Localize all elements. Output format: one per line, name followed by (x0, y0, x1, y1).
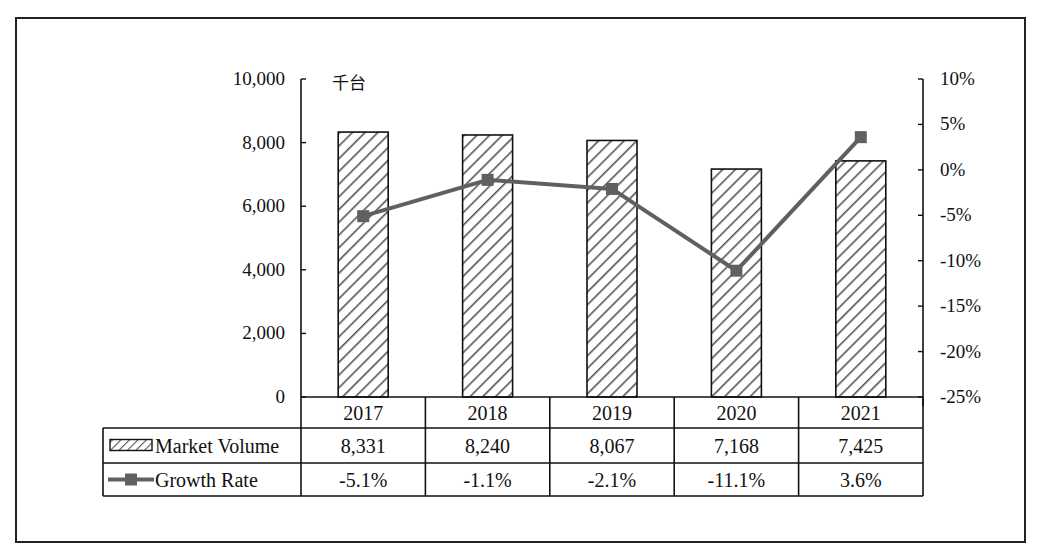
right-axis-tick-label: 5% (940, 113, 966, 134)
right-axis-tick-label: -5% (940, 204, 972, 225)
table-header-year: 2017 (343, 402, 383, 424)
table-cell: 8,331 (341, 435, 386, 457)
table-cell: 8,240 (465, 435, 510, 457)
growth-marker-2018 (482, 174, 494, 186)
legend-key-hatch-icon (110, 440, 152, 451)
left-axis-tick-label: 0 (276, 386, 286, 407)
data-table: 20172018201920202021Market Volume8,3318,… (103, 397, 923, 496)
table-cell: -5.1% (339, 469, 387, 491)
table-header-year: 2020 (716, 402, 756, 424)
left-axis-tick-label: 2,000 (242, 322, 285, 343)
right-axis-tick-label: -25% (940, 386, 981, 407)
right-axis-tick-label: 10% (940, 68, 975, 89)
table-row-label: Growth Rate (155, 469, 258, 491)
bar-2019 (587, 140, 637, 397)
left-axis-tick-label: 6,000 (242, 195, 285, 216)
growth-marker-2021 (855, 131, 867, 143)
bar-2020 (711, 169, 761, 397)
unit-label-text: 千台 (332, 73, 366, 93)
left-axis-tick-label: 10,000 (233, 68, 285, 89)
bar-2021 (836, 161, 886, 397)
table-cell: 8,067 (590, 435, 635, 457)
growth-marker-2017 (357, 210, 369, 222)
table-row-label: Market Volume (155, 435, 279, 457)
table-cell: -2.1% (588, 469, 636, 491)
market-volume-bars (338, 132, 886, 397)
right-axis-tick-label: -10% (940, 250, 981, 271)
table-header-year: 2019 (592, 402, 632, 424)
legend-key-marker-icon (125, 474, 137, 486)
left-axis-tick-label: 8,000 (242, 132, 285, 153)
right-axis-tick-label: -20% (940, 341, 981, 362)
table-header-year: 2021 (841, 402, 881, 424)
bar-2017 (338, 132, 388, 397)
chart-canvas: 千台 02,0004,0006,0008,00010,000 -25%-20%-… (0, 0, 1043, 552)
table-cell: 7,425 (838, 435, 883, 457)
table-cell: -1.1% (463, 469, 511, 491)
right-axis-tick-label: 0% (940, 159, 966, 180)
growth-marker-2019 (606, 183, 618, 195)
left-axis: 02,0004,0006,0008,00010,000 (233, 68, 306, 407)
growth-marker-2020 (730, 265, 742, 277)
table-cell: -11.1% (708, 469, 766, 491)
table-header-year: 2018 (468, 402, 508, 424)
table-cell: 3.6% (840, 469, 882, 491)
right-axis: -25%-20%-15%-10%-5%0%5%10% (918, 68, 981, 407)
table-cell: 7,168 (714, 435, 759, 457)
unit-label: 千台 (332, 73, 366, 93)
right-axis-tick-label: -15% (940, 295, 981, 316)
left-axis-tick-label: 4,000 (242, 259, 285, 280)
